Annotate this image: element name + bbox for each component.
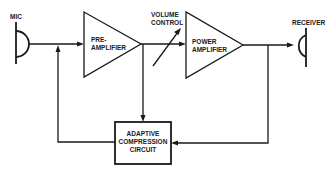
- compression-label-line2: COMPRESSION: [119, 138, 168, 145]
- microphone-icon: [16, 31, 29, 57]
- volume-label-line1: VOLUME: [151, 11, 179, 18]
- power-amplifier: POWER AMPLIFIER: [186, 12, 243, 78]
- arrow-head-icon: [171, 141, 178, 146]
- poweramp-feedback-line: [175, 45, 268, 143]
- volume-arrow-line: [153, 32, 178, 66]
- mic-label: MIC: [10, 13, 22, 20]
- mic: MIC: [10, 13, 29, 64]
- arrow-head-icon: [56, 45, 61, 52]
- poweramp-label-line1: POWER: [192, 38, 217, 45]
- poweramp-label-line2: AMPLIFIER: [192, 46, 227, 53]
- receiver: RECEIVER: [292, 19, 326, 67]
- preamplifier: PRE- AMPLIFIER: [84, 12, 141, 77]
- arrow-head-icon: [287, 43, 294, 48]
- arrow-head-icon: [77, 42, 84, 47]
- block-diagram: MIC PRE- AMPLIFIER VOLUME CONTROL POWER …: [0, 0, 332, 173]
- arrow-head-icon: [141, 115, 146, 122]
- poweramp-triangle: [186, 12, 243, 78]
- volume-control: VOLUME CONTROL: [151, 11, 183, 66]
- arrow-head-icon: [179, 42, 186, 47]
- volume-label-line2: CONTROL: [151, 19, 183, 26]
- preamp-label-line1: PRE-: [91, 36, 107, 43]
- adaptive-compression-circuit: ADAPTIVE COMPRESSION CIRCUIT: [115, 122, 171, 164]
- compression-label-line1: ADAPTIVE: [127, 130, 161, 137]
- speaker-icon: [299, 35, 306, 57]
- compression-label-line3: CIRCUIT: [130, 146, 156, 153]
- receiver-label: RECEIVER: [292, 19, 326, 26]
- compression-feedback-line: [58, 49, 115, 142]
- preamp-label-line2: AMPLIFIER: [91, 44, 126, 51]
- arrow-head-icon: [174, 28, 181, 35]
